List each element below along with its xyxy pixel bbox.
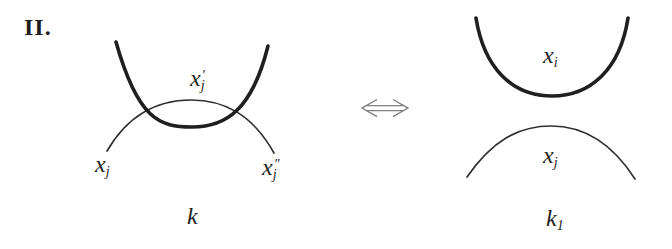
caption-k1: k1 xyxy=(546,206,566,230)
subsup-stack: j xyxy=(554,161,563,163)
subsup-stack: i xyxy=(554,61,563,63)
label-x-j-right: xj xyxy=(543,143,563,167)
subsup-stack xyxy=(198,222,207,224)
subsup-stack: ′j xyxy=(201,84,210,86)
subsup-stack: 1 xyxy=(557,224,566,226)
caption-k: k xyxy=(187,204,207,228)
knot-diagram-canvas xyxy=(0,0,672,249)
arrow-left-head xyxy=(362,100,377,117)
arrow-shaft-lines xyxy=(367,106,403,111)
label-x-i: xi xyxy=(543,43,563,67)
arrow-right-head xyxy=(393,100,408,117)
label-x-j-prime: x′j xyxy=(190,66,210,90)
label-x-j-double-prime: x″j xyxy=(262,155,282,179)
reidemeister-move-2-figure: II. x′j xj x″j k xi xj k1 xyxy=(0,0,672,249)
label-x-j-left: xj xyxy=(95,152,115,176)
subsup-stack: j xyxy=(106,170,115,172)
equivalence-double-arrow-icon xyxy=(362,100,408,117)
subsup-stack: ″j xyxy=(273,173,282,175)
